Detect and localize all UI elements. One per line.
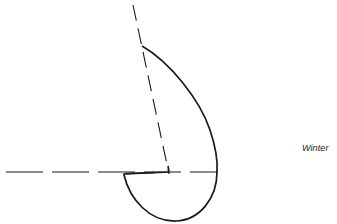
polar-diagram (0, 0, 337, 224)
season-label: Winter (302, 143, 329, 153)
slanted-axis (133, 5, 169, 174)
polar-curve (124, 46, 217, 221)
radial-segment (126, 173, 155, 174)
